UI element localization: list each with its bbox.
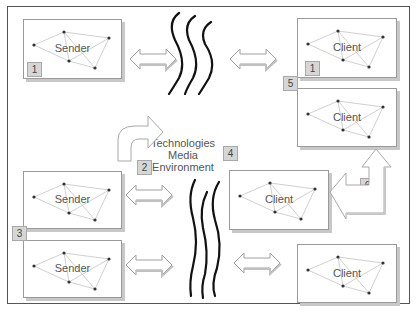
sender-node-top: Sender 1 [23,19,122,79]
node-label: Sender [24,262,121,274]
wavy-lines-icon-top [165,10,235,95]
center-text-line3: Environment [143,161,223,173]
double-arrow-icon [125,254,175,278]
double-arrow-icon [233,252,283,276]
node-label: Client [230,193,328,205]
client-node-bottom: Client [297,244,397,303]
step-badge-1: 1 [305,61,320,76]
sender-node-mid: Sender [23,171,122,229]
double-arrow-icon [229,48,279,72]
node-label: Sender [24,42,121,54]
double-arrow-icon [125,184,175,208]
client-node-mid: Client [229,170,329,230]
node-label: Client [298,41,396,53]
step-badge-1: 1 [27,62,42,77]
wavy-lines-icon-bottom [185,178,235,300]
step-badge-3: 3 [12,226,27,241]
node-label: Client [298,110,396,122]
node-label: Client [298,266,396,278]
step-badge-5: 5 [283,76,298,91]
sender-node-bottom: Sender [23,240,122,298]
client-node-top: Client 1 [297,18,397,78]
curved-arrow-icon [115,110,165,162]
step-badge-4: 4 [223,146,238,161]
l-shaped-arrow-icon [328,147,398,222]
node-label: Sender [24,193,121,205]
client-node-second: Client [297,88,397,147]
